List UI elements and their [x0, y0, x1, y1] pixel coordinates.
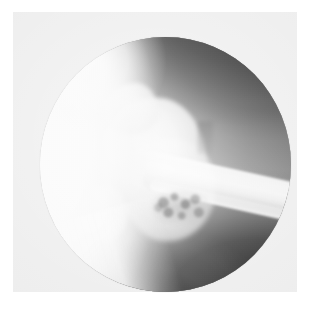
figure-root [0, 0, 312, 313]
superior-tubercle [103, 83, 158, 134]
radiograph-plate [13, 12, 297, 292]
cortical-notch [198, 121, 213, 154]
radiograph-circular-field [40, 37, 291, 292]
